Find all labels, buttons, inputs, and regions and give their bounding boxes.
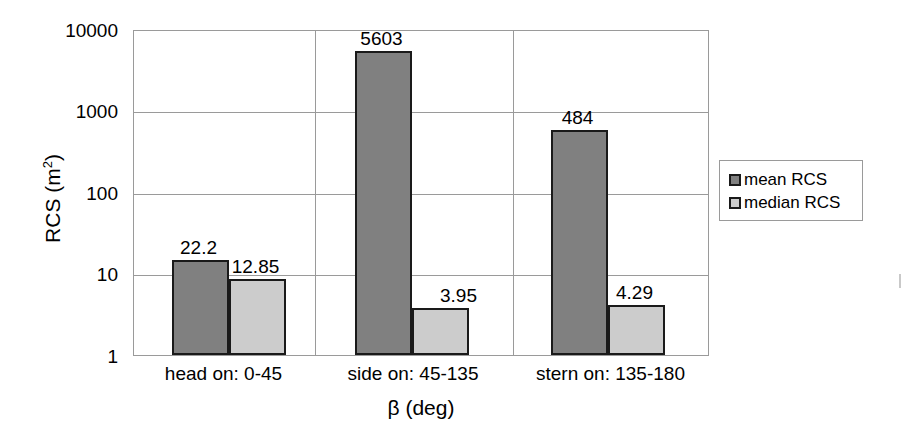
bar-mean-stern-on[interactable] bbox=[551, 130, 608, 355]
bar-mean-side-on[interactable] bbox=[355, 51, 412, 355]
legend-item-median-rcs[interactable]: median RCS bbox=[729, 191, 862, 214]
bar-value-label-mean-stern-on: 484 bbox=[520, 108, 635, 127]
legend-swatch-icon bbox=[729, 174, 741, 186]
bar-value-label-median-side-on: 3.95 bbox=[401, 286, 516, 305]
bar-median-stern-on[interactable] bbox=[608, 305, 665, 355]
category-divider-1 bbox=[315, 31, 316, 355]
y-tick-label: 10 bbox=[97, 265, 118, 284]
rcs-bar-chart: RCS (m2) 10000 1000 100 10 1 22.2 12.85 … bbox=[0, 0, 923, 444]
bar-median-head-on[interactable] bbox=[229, 279, 286, 355]
x-tick-label-stern-on: stern on: 135-180 bbox=[512, 364, 709, 384]
bar-value-label-median-stern-on: 4.29 bbox=[577, 283, 692, 302]
bar-median-side-on[interactable] bbox=[412, 308, 469, 355]
category-divider-2 bbox=[513, 31, 514, 355]
y-tick-label: 10000 bbox=[65, 21, 118, 40]
bar-value-label-mean-head-on: 22.2 bbox=[141, 238, 256, 257]
y-tick-label: 1000 bbox=[76, 102, 118, 121]
scan-artifact bbox=[899, 274, 901, 288]
y-tick-label: 1 bbox=[107, 347, 118, 366]
x-tick-label-head-on: head on: 0-45 bbox=[133, 364, 314, 384]
x-tick-label-side-on: side on: 45-135 bbox=[314, 364, 512, 384]
x-axis-title: β (deg) bbox=[133, 396, 709, 420]
legend-swatch-icon bbox=[729, 197, 741, 209]
legend: mean RCS median RCS bbox=[719, 160, 863, 221]
legend-item-label: mean RCS bbox=[744, 171, 827, 188]
legend-item-mean-rcs[interactable]: mean RCS bbox=[729, 168, 862, 191]
y-axis-tick-labels: 10000 1000 100 10 1 bbox=[28, 0, 126, 444]
legend-item-label: median RCS bbox=[744, 194, 840, 211]
bar-value-label-median-head-on: 12.85 bbox=[198, 257, 313, 276]
y-tick-label: 100 bbox=[86, 184, 118, 203]
gridline-100 bbox=[134, 194, 708, 195]
plot-area bbox=[133, 30, 709, 356]
bar-value-label-mean-side-on: 5603 bbox=[324, 29, 439, 48]
